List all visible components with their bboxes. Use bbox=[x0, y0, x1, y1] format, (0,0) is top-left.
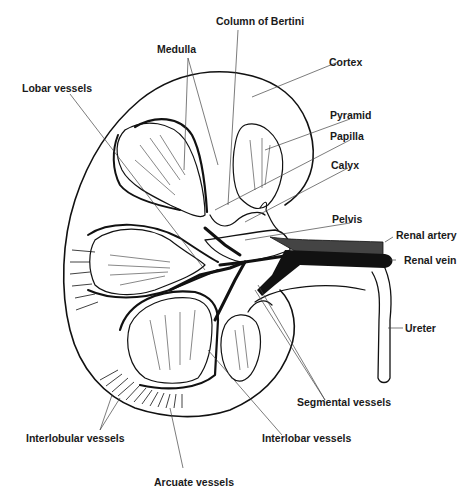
label-papilla: Papilla bbox=[330, 130, 364, 142]
pyramid-upper-right bbox=[233, 124, 283, 208]
kidney-diagram bbox=[0, 0, 476, 500]
ureter-pelvis-outline bbox=[255, 286, 365, 302]
label-renal-artery: Renal artery bbox=[396, 229, 457, 241]
label-arcuate-vessels: Arcuate vessels bbox=[154, 476, 234, 488]
label-pelvis: Pelvis bbox=[332, 213, 362, 225]
pyramid-lower-middle bbox=[221, 315, 261, 381]
label-cortex: Cortex bbox=[329, 56, 362, 68]
label-ureter: Ureter bbox=[405, 322, 436, 334]
pyramid-lower-left bbox=[128, 298, 212, 384]
pyramid-middle-left bbox=[90, 229, 205, 294]
label-calyx: Calyx bbox=[331, 159, 359, 171]
label-interlobular-vessels: Interlobular vessels bbox=[26, 432, 125, 444]
ureter-shape bbox=[372, 262, 391, 383]
label-segmental-vessels: Segmental vessels bbox=[297, 396, 391, 408]
label-pyramid: Pyramid bbox=[330, 109, 371, 121]
label-lobar-vessels: Lobar vessels bbox=[22, 82, 92, 94]
label-interlobar-vessels: Interlobar vessels bbox=[262, 432, 351, 444]
label-medulla: Medulla bbox=[157, 43, 196, 55]
label-renal-vein: Renal vein bbox=[404, 254, 457, 266]
label-column-of-bertini: Column of Bertini bbox=[216, 15, 304, 27]
